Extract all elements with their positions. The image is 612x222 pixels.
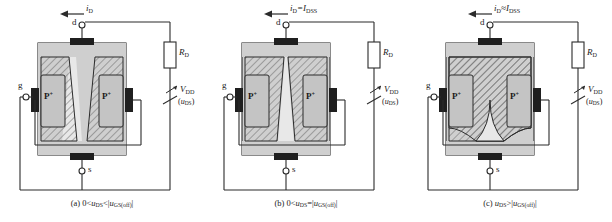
- drain-contact: [274, 38, 298, 45]
- drain-terminal-label-c: d: [480, 17, 485, 27]
- gate-terminal-label-c: g: [426, 80, 431, 90]
- caption-c: (c) uDS>|uGS(off)|: [408, 198, 612, 208]
- source-contact: [478, 153, 502, 160]
- gate-region-left-label-b: P+: [248, 91, 257, 101]
- resistor-rd: [572, 42, 584, 68]
- caption-b: (b) 0<uDS=|uGS(off)|: [204, 198, 408, 208]
- resistor-rd: [164, 42, 176, 68]
- gate-terminal-label-b: g: [222, 80, 227, 90]
- gate-node: [431, 94, 437, 100]
- panel-c: d s g P+ P+ RD VDD (uDS) iD≈IDSS (c) uDS…: [408, 0, 612, 222]
- resistor-label-c: RD: [587, 47, 597, 58]
- gate-node: [23, 94, 29, 100]
- gate-region-right: [507, 75, 531, 127]
- panel-a: d s g P+ P+ RD VDD (uDS) iD (a) 0<uDS<|u…: [0, 0, 204, 222]
- gate-node: [227, 94, 233, 100]
- current-label-b: iD=IDSS: [290, 3, 317, 14]
- source-region: [38, 141, 126, 155]
- supply-sub-label-a: (uDS): [178, 97, 194, 106]
- gate-contact-right: [533, 88, 541, 112]
- current-label-c: iD≈IDSS: [494, 3, 520, 14]
- source-terminal-label-a: s: [88, 164, 92, 174]
- drain-node: [487, 22, 493, 28]
- gate-region-right-label-b: P+: [306, 91, 315, 101]
- supply-sub-label-b: (uDS): [382, 97, 398, 106]
- resistor-label-a: RD: [179, 47, 189, 58]
- gate-region-left: [245, 75, 269, 127]
- drain-contact: [70, 38, 94, 45]
- source-terminal-label-c: s: [496, 164, 500, 174]
- drain-region: [446, 43, 534, 57]
- supply-label-a: VDD: [180, 84, 194, 95]
- gate-region-right-label-c: P+: [510, 91, 519, 101]
- resistor-rd: [368, 42, 380, 68]
- gate-region-left: [449, 75, 473, 127]
- source-node: [487, 168, 493, 174]
- source-node: [79, 168, 85, 174]
- drain-contact: [478, 38, 502, 45]
- source-terminal-label-b: s: [292, 164, 296, 174]
- source-node: [283, 168, 289, 174]
- drain-node: [79, 22, 85, 28]
- gate-region-right-label-a: P+: [102, 91, 111, 101]
- source-contact: [274, 153, 298, 160]
- drain-terminal-label-a: d: [72, 17, 77, 27]
- gate-region-right: [303, 75, 327, 127]
- resistor-label-b: RD: [383, 47, 393, 58]
- gate-region-right: [99, 75, 123, 127]
- gate-contact-right: [125, 88, 133, 112]
- gate-contact-right: [329, 88, 337, 112]
- drain-terminal-label-b: d: [276, 17, 281, 27]
- current-arrow-head: [60, 11, 68, 18]
- supply-label-c: VDD: [588, 84, 602, 95]
- current-arrow-head: [468, 11, 476, 18]
- current-arrow-head: [264, 11, 272, 18]
- drain-region: [242, 43, 330, 57]
- gate-terminal-label-a: g: [18, 80, 23, 90]
- figure-canvas: d s g P+ P+ RD VDD (uDS) iD (a) 0<uDS<|u…: [0, 0, 612, 222]
- supply-label-b: VDD: [384, 84, 398, 95]
- drain-region: [38, 43, 126, 57]
- gate-region-left: [41, 75, 65, 127]
- gate-region-left-label-c: P+: [452, 91, 461, 101]
- source-region: [446, 141, 534, 155]
- current-label-a: iD: [86, 3, 93, 14]
- drain-node: [283, 22, 289, 28]
- supply-sub-label-c: (uDS): [586, 97, 602, 106]
- source-region: [242, 141, 330, 155]
- gate-region-left-label-a: P+: [44, 91, 53, 101]
- caption-a: (a) 0<uDS<|uGS(off)|: [0, 198, 204, 208]
- source-contact: [70, 153, 94, 160]
- panel-b: d s g P+ P+ RD VDD (uDS) iD=IDSS (b) 0<u…: [204, 0, 408, 222]
